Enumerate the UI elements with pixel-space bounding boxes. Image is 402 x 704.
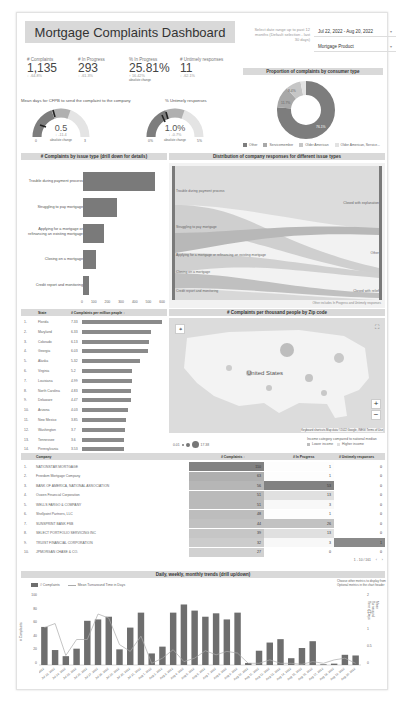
state-row[interactable]: 7. Louisiana 4.99	[21, 377, 167, 386]
legend-bar-icon	[31, 583, 38, 587]
state-value-bar	[82, 330, 151, 334]
company-row[interactable]: 4. Ocwen Financial Corporation 51 13 0	[21, 491, 385, 500]
dashboard-page: Mortgage Complaints Dashboard Select dat…	[16, 12, 388, 690]
state-value-bar	[82, 389, 131, 393]
issue-bar[interactable]	[83, 198, 117, 217]
gauge-1-title: Mean days for CFPB to send the complaint…	[21, 98, 161, 103]
sankey-title: Distribution of company responses for di…	[169, 153, 385, 160]
donut-title: Proportion of complaints by consumer typ…	[243, 68, 383, 75]
state-row[interactable]: 8. North Carolina 4.83	[21, 387, 167, 396]
map-size-legend: 0.01 17.38	[173, 441, 209, 448]
pagination-label: 1 - 10 / 161	[354, 558, 371, 562]
company-row[interactable]: 2. Freedom Mortgage Company 63 1 0	[21, 472, 385, 481]
state-row[interactable]: 11. New Mexico 3.85	[21, 416, 167, 425]
state-value-bar	[82, 320, 162, 324]
issue-bar[interactable]	[83, 224, 104, 243]
company-table-header: Company # Complaints ↓ # In Progress # U…	[21, 453, 385, 460]
state-table: State # Complaints per million people ↓ …	[21, 309, 167, 457]
state-value-bar	[82, 349, 148, 353]
state-row[interactable]: 13. Tennessee 3.6	[21, 436, 167, 445]
state-value-bar	[82, 408, 128, 412]
date-range-picker[interactable]: Jul 22, 2022 - Aug 20, 2022 ▾	[314, 26, 396, 37]
state-value-bar	[82, 428, 125, 432]
state-value-bar	[82, 438, 124, 442]
gauge-mean-days: 0.5 ↓ -11.4 absolute change 0 3	[31, 105, 91, 145]
company-row[interactable]: 8. SELECT PORTFOLIO SERVICING INC 39 13 …	[21, 529, 385, 538]
trends-bars-icon: Jul 22, 2022Jul 23, 2022Jul 24, 2022Jul …	[39, 597, 361, 687]
company-table: Company # Complaints ↓ # In Progress # U…	[21, 453, 385, 571]
state-value-bar	[82, 369, 132, 373]
fullscreen-icon[interactable]: ⛶	[375, 324, 379, 331]
state-row[interactable]: 3. Colorado 6.13	[21, 338, 167, 347]
state-row[interactable]: 5. Alaska 5.32	[21, 357, 167, 366]
donut-chart-icon	[276, 80, 336, 140]
trends-legend: # Complaints Mean Turnaround Time in Day…	[31, 583, 125, 587]
chevron-down-icon: ▾	[390, 29, 392, 34]
product-filter[interactable]: Mortgage Product ▾	[314, 41, 396, 52]
state-row[interactable]: 12. Washington 3.7	[21, 426, 167, 435]
state-row[interactable]: 6. Virginia 5.2	[21, 367, 167, 376]
company-row[interactable]: 3. BANK OF AMERICA, NATIONAL ASSOCIATION…	[21, 481, 385, 490]
chevron-down-icon: ▾	[390, 44, 392, 49]
state-row[interactable]: 2. Maryland 6.33	[21, 328, 167, 337]
trends-note: Choose other metrics to display from Opt…	[337, 579, 387, 587]
sankey-chart[interactable]: Trouble during payment process Strugglin…	[169, 163, 385, 308]
company-row[interactable]: 1. NATIONSTAR MORTGAGE 110 1 0	[21, 462, 385, 471]
page-title: Mortgage Complaints Dashboard	[25, 21, 235, 43]
state-value-bar	[82, 379, 132, 383]
state-value-bar	[82, 447, 124, 451]
date-range-label: Select date range up to past 12 months (…	[250, 27, 310, 42]
company-row[interactable]: 6. Shellpoint Partners, LLC 48 1 0	[21, 510, 385, 519]
issue-bar-chart[interactable]: Trouble during payment process Strugglin…	[21, 163, 167, 308]
kpi-complaints: # Complaints 1,135 ↓ -64.8%	[27, 57, 75, 78]
state-row[interactable]: 10. Arizona 4.03	[21, 406, 167, 415]
donut-chart[interactable]: 76.1% 11.7% 8.4%	[276, 80, 336, 140]
zip-code-map[interactable]: United States ⌖ ⛶ + − Keyboard shortcuts…	[169, 318, 385, 433]
kpi-untimely: # Untimely responses 11 ↓ -62.1%	[180, 57, 240, 78]
zoom-out-button[interactable]: −	[371, 410, 381, 420]
legend-swatch-icon	[299, 143, 303, 147]
size-small-icon	[182, 444, 184, 446]
next-page-icon[interactable]: ›	[382, 558, 383, 562]
legend-swatch-icon	[337, 443, 340, 446]
map-color-legend: Income category compared to national med…	[307, 437, 387, 446]
product-filter-value: Mortgage Product	[318, 44, 354, 49]
gauge-untimely: 1.0% ↓ -0.7% absolute change 0% 5%	[145, 105, 205, 145]
legend-swatch-icon	[263, 143, 267, 147]
size-medium-icon	[186, 443, 190, 447]
state-value-bar	[82, 418, 126, 422]
map-select-tool-icon[interactable]: ⌖	[175, 324, 185, 334]
company-row[interactable]: 5. WELLS FARGO & COMPANY 51 3 0	[21, 500, 385, 509]
company-row[interactable]: 7. SUNSPRINT BANK FSB 44 26 0	[21, 519, 385, 528]
company-row[interactable]: 10. JPMORGAN CHASE & CO. 27 0 0	[21, 548, 385, 557]
state-row[interactable]: 4. Georgia 6.03	[21, 347, 167, 356]
trends-chart[interactable]: # Complaints Mean Turnaround Time in Day…	[21, 591, 385, 691]
company-row[interactable]: 9. TRUIST FINANCIAL CORPORATION 32 3 1	[21, 538, 385, 547]
zoom-in-button[interactable]: +	[371, 399, 381, 409]
issue-bar[interactable]	[83, 250, 96, 269]
state-row[interactable]: 1. Florida 7.33	[21, 318, 167, 327]
legend-swatch-icon	[335, 143, 339, 147]
issue-x-axis: 0100200300400500600	[81, 300, 165, 304]
legend-swatch-icon	[243, 143, 247, 147]
sankey-flows-icon	[169, 163, 385, 303]
issue-bar[interactable]	[83, 276, 89, 295]
state-value-bar	[82, 359, 140, 363]
prev-page-icon[interactable]: ‹	[376, 558, 377, 562]
trends-title: Daily, weekly, monthly trends (drill up/…	[21, 571, 385, 578]
issue-bar[interactable]	[83, 172, 155, 191]
legend-line-icon	[68, 585, 76, 586]
state-row[interactable]: 9. Delaware 4.47	[21, 396, 167, 405]
kpi-pct-in-progress: % In Progress 25.81% ↑ 16.42% absolute c…	[129, 57, 177, 82]
kpi-in-progress: # In Progress 293 ↓ -61.3%	[78, 57, 126, 78]
map-title: # Complaints per thousand people by Zip …	[169, 309, 385, 316]
date-range-value: Jul 22, 2022 - Aug 20, 2022	[318, 29, 373, 34]
legend-swatch-icon	[307, 443, 310, 446]
state-value-bar	[82, 398, 131, 402]
state-value-bar	[82, 340, 149, 344]
size-large-icon	[192, 441, 199, 448]
donut-legend: Other Servicemember Older American Older…	[243, 143, 388, 147]
state-table-header: State # Complaints per million people ↓	[21, 309, 167, 316]
issue-chart-title: # Complaints by issue type (drill down f…	[21, 153, 167, 160]
gauge-2-title: % Untimely responses	[165, 98, 245, 103]
